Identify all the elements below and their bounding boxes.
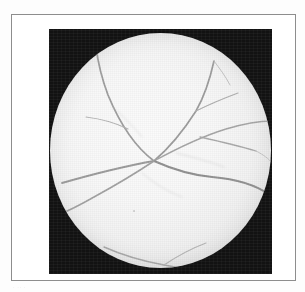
vessel-branch-temporal-upper <box>154 121 271 161</box>
vessel-branch-inferior-low <box>58 161 154 215</box>
vessel-branch-superior-fork <box>196 93 238 111</box>
fundus-image <box>50 33 271 268</box>
caption-scan-artifact: · ·· · <box>13 284 99 290</box>
vessel-main-trunk <box>62 161 154 183</box>
figure-frame <box>11 14 296 281</box>
vessel-branch-far-right-thin <box>256 151 271 163</box>
vessel-branch-inferior-arcade <box>104 247 218 268</box>
retinal-vessel-overlay <box>50 33 271 268</box>
vessel-branch-inferior-arcade-spur <box>164 243 206 265</box>
vessel-branch-inferior <box>154 161 270 195</box>
vessel-capillary-a <box>176 153 224 167</box>
document-page: · ·· · <box>0 0 305 292</box>
image-speck-artifact <box>133 210 135 212</box>
vessel-capillary-b <box>142 173 182 197</box>
vessel-branch-thin-upper <box>214 61 230 85</box>
vessel-branch-temporal-upper-b <box>200 137 256 151</box>
photo-plate-background <box>49 29 272 274</box>
vessel-branch-upper-left <box>96 47 154 161</box>
